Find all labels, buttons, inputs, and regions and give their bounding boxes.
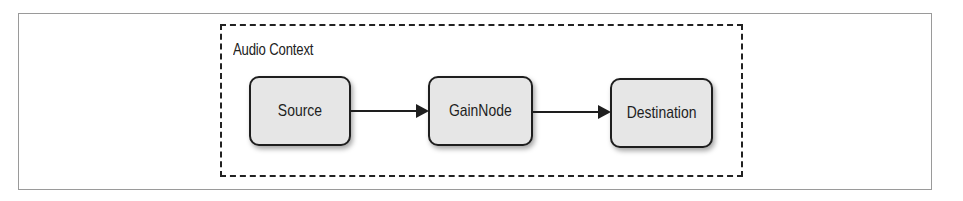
audio-context-label: Audio Context	[233, 41, 313, 59]
source-node: Source	[249, 76, 351, 146]
arrow-gain-to-destination	[533, 111, 609, 113]
destination-node-label: Destination	[627, 103, 697, 123]
source-node-label: Source	[278, 101, 322, 121]
destination-node: Destination	[610, 78, 713, 148]
gain-node: GainNode	[428, 76, 533, 146]
arrow-source-to-gain	[351, 110, 427, 112]
gain-node-label: GainNode	[449, 101, 512, 121]
